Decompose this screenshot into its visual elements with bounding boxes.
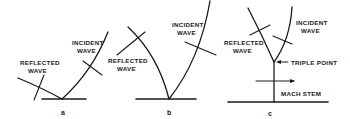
panel-a: REFLECTED WAVE INCIDENT WAVE a xyxy=(18,32,108,116)
panel-label-b: b xyxy=(167,109,171,116)
panel-c: REFLECTED WAVE INCIDENT WAVE TRIPLE POIN… xyxy=(224,7,337,117)
incident-wave-label-a-line2: WAVE xyxy=(77,47,96,54)
arrowhead-icon xyxy=(276,60,281,64)
reflected-wave-direction-a xyxy=(34,75,44,100)
reflected-wave-label-c-line1: REFLECTED xyxy=(224,39,264,46)
panel-label-a: a xyxy=(61,109,65,116)
reflected-wave-label-c-line2: WAVE xyxy=(233,47,252,54)
reflected-wave-label-a-line1: REFLECTED xyxy=(20,59,60,66)
triple-point-label: TRIPLE POINT xyxy=(291,59,337,66)
mach-stem-label: MACH STEM xyxy=(281,90,321,97)
panel-label-c: c xyxy=(268,110,272,117)
shock-reflection-diagram: REFLECTED WAVE INCIDENT WAVE a REFLECTED… xyxy=(0,0,350,119)
incident-wave-direction-b xyxy=(185,42,216,55)
reflected-wave-direction-b xyxy=(117,32,145,55)
incident-wave-c xyxy=(274,7,292,62)
incident-wave-label-a-line1: INCIDENT xyxy=(72,39,104,46)
reflected-wave-label-b-line1: REFLECTED xyxy=(108,57,148,64)
incident-wave-label-c-line1: INCIDENT xyxy=(296,19,328,26)
reflected-wave-label-a-line2: WAVE xyxy=(28,67,47,74)
incident-wave-label-b-line2: WAVE xyxy=(177,29,196,36)
incident-wave-label-b-line1: INCIDENT xyxy=(172,21,204,28)
reflected-wave-label-b-line2: WAVE xyxy=(117,65,136,72)
reflected-wave-a xyxy=(18,78,62,99)
incident-wave-label-c-line2: WAVE xyxy=(301,27,320,34)
arrowhead-icon xyxy=(290,79,295,83)
panel-b: REFLECTED WAVE INCIDENT WAVE b xyxy=(108,1,216,116)
incident-wave-direction-c xyxy=(273,36,292,44)
reflected-wave-direction-c xyxy=(250,25,270,35)
